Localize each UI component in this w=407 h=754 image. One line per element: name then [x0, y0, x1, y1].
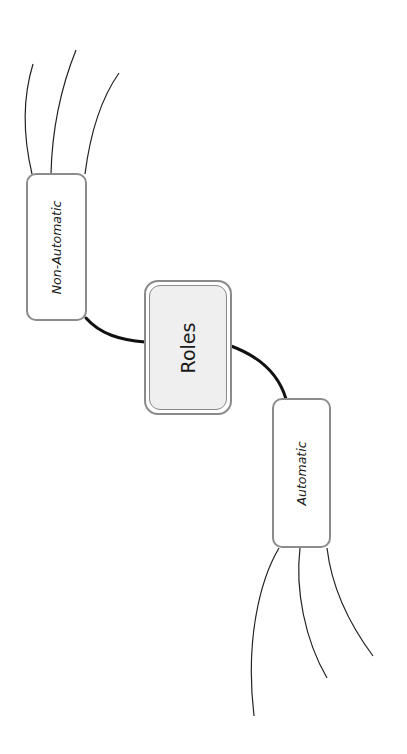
branch-node-non-automatic[interactable]: Non-Automatic [26, 173, 87, 321]
central-node-label: Roles [177, 322, 199, 373]
connector-roles-to-automatic [231, 346, 286, 399]
subbranch-line-non-automatic-1 [25, 64, 33, 174]
subbranch-line-non-automatic-3 [85, 73, 119, 174]
subbranch-line-non-automatic-2 [51, 50, 76, 174]
central-node-roles[interactable]: Roles [144, 280, 232, 415]
central-node-inner: Roles [149, 285, 227, 410]
branch-label-non-automatic: Non-Automatic [49, 200, 64, 294]
connector-roles-to-non-automatic [86, 318, 145, 342]
branch-node-automatic[interactable]: Automatic [272, 398, 331, 548]
subbranch-line-automatic-2 [299, 548, 327, 678]
subbranch-line-automatic-3 [327, 548, 373, 656]
subbranch-line-automatic-1 [251, 548, 279, 716]
branch-label-automatic: Automatic [294, 441, 309, 505]
